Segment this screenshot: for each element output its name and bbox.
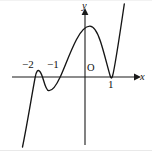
x-tick-label-one: 1 [108,79,114,90]
plot-canvas [0,0,152,151]
x-tick-label-neg-two: −2 [22,59,34,70]
y-axis-label: y [82,1,87,12]
origin-label: O [87,63,95,74]
x-axis-label: x [140,72,145,83]
x-tick-label-neg-one: −1 [47,59,59,70]
polynomial-curve [23,4,125,147]
graph-figure: −2 −1 O 1 y x [0,0,152,151]
